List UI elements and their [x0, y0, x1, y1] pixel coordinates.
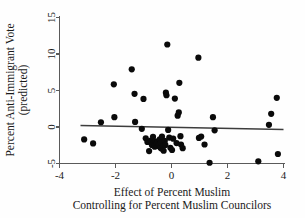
regression-fit-line	[81, 125, 284, 129]
x-tick-label: -2	[111, 169, 120, 181]
x-tick-label: 0	[169, 169, 175, 181]
data-point	[206, 160, 212, 166]
data-point	[139, 126, 145, 132]
data-point	[132, 119, 138, 125]
data-point	[111, 81, 117, 87]
data-point	[195, 55, 201, 61]
data-point	[169, 147, 175, 153]
y-tick-label: 15	[45, 12, 57, 24]
x-axis-ticks	[60, 164, 284, 168]
data-point	[172, 95, 178, 101]
data-point	[176, 80, 182, 86]
data-point	[177, 133, 183, 139]
data-point	[176, 109, 182, 115]
data-point	[198, 133, 204, 139]
y-tick-label: 5	[45, 87, 57, 93]
y-tick-label: 10	[45, 48, 57, 60]
data-point	[180, 145, 186, 151]
data-point	[275, 151, 281, 157]
x-tick-label: -4	[55, 169, 65, 181]
data-point	[165, 127, 171, 133]
data-point	[161, 148, 167, 154]
data-point	[146, 148, 152, 154]
data-point	[210, 114, 216, 120]
data-point	[111, 114, 117, 120]
data-point	[201, 141, 207, 147]
data-point	[81, 136, 87, 142]
data-point	[212, 127, 218, 133]
scatter-plot-figure: -4-2024 -5051015 Percent Anti-Immigrant …	[0, 0, 305, 218]
data-point	[164, 41, 170, 47]
y-tick-label: -5	[45, 158, 57, 168]
data-point	[90, 140, 96, 146]
y-axis-label-line2: (predicted)	[17, 65, 30, 116]
y-axis-label-line1: Percent Anti-Immigrant Vote	[4, 23, 17, 156]
data-point	[163, 92, 169, 98]
data-point	[274, 95, 280, 101]
data-point	[131, 91, 137, 97]
y-tick-label: 0	[45, 124, 57, 130]
data-point-group	[81, 41, 281, 165]
data-point	[255, 158, 261, 164]
x-tick-label: 4	[281, 169, 287, 181]
x-axis-label-line2: Controlling for Percent Muslim Councilor…	[73, 199, 272, 212]
x-tick-label: 2	[225, 169, 231, 181]
data-point	[266, 122, 272, 128]
data-point	[129, 66, 135, 72]
x-axis-label-line1: Effect of Percent Muslim	[114, 186, 230, 198]
data-point	[268, 111, 274, 117]
data-point	[98, 119, 104, 125]
chart-canvas: -4-2024 -5051015 Percent Anti-Immigrant …	[0, 0, 305, 218]
y-axis-tick-labels: -5051015	[45, 12, 57, 169]
x-axis-tick-labels: -4-2024	[55, 169, 287, 181]
data-point	[140, 96, 146, 102]
